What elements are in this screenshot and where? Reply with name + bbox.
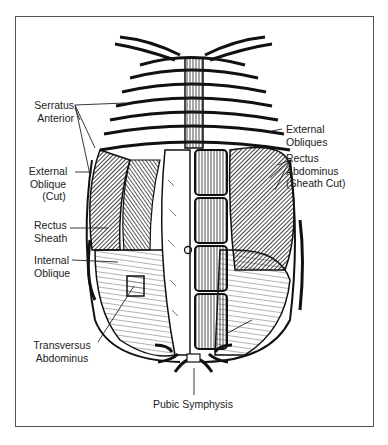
label-line: External [20, 165, 76, 178]
label-line: Obliques [286, 136, 327, 149]
rib-hatching-left [123, 160, 160, 250]
label-external-obliques: External Obliques [286, 123, 327, 148]
label-line: Serratus [22, 99, 74, 112]
label-external-oblique-cut: External Oblique (Cut) [20, 165, 76, 203]
label-line: Internal [34, 254, 70, 267]
label-line: Rectus [286, 152, 346, 165]
label-rectus-sheath: Rectus Sheath [34, 219, 67, 244]
label-line: (Cut) [20, 190, 76, 203]
label-line: Abdominus [30, 352, 94, 365]
label-line: Sheath [34, 232, 67, 245]
label-pubic-symphysis: Pubic Symphysis [153, 398, 233, 411]
rectus-abdominus [195, 150, 227, 349]
label-line: Oblique [20, 178, 76, 191]
label-line: Abdominus [286, 165, 346, 178]
label-serratus-anterior: Serratus Anterior [22, 99, 74, 124]
label-line: Anterior [22, 112, 74, 125]
label-internal-oblique: Internal Oblique [34, 254, 70, 279]
label-rectus-abdominus: Rectus Abdominus (Sheath Cut) [286, 152, 346, 190]
label-transversus-abdominus: Transversus Abdominus [30, 339, 94, 364]
sternum [185, 58, 203, 148]
label-line: Oblique [34, 267, 70, 280]
label-line: External [286, 123, 327, 136]
label-line: Rectus [34, 219, 67, 232]
label-line: (Sheath Cut) [286, 177, 346, 190]
label-line: Transversus [30, 339, 94, 352]
label-line: Pubic Symphysis [153, 398, 233, 411]
